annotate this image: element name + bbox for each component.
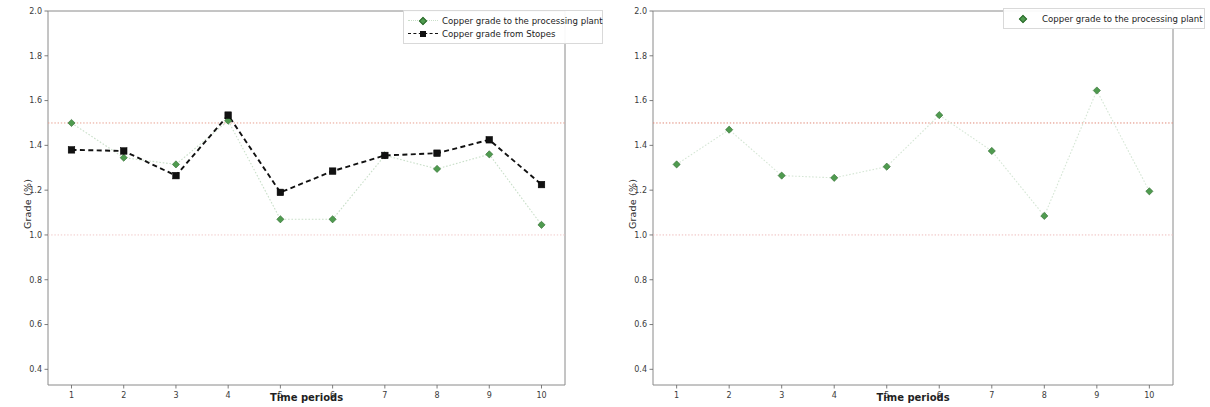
svg-text:9: 9 bbox=[487, 391, 492, 400]
svg-text:1.4: 1.4 bbox=[29, 141, 42, 150]
svg-text:8: 8 bbox=[1042, 391, 1047, 400]
svg-text:3: 3 bbox=[173, 391, 178, 400]
svg-text:4: 4 bbox=[832, 391, 837, 400]
legend-left: Copper grade to the processing plant Cop… bbox=[403, 10, 603, 44]
diamond-marker-icon bbox=[408, 15, 438, 27]
svg-text:0.8: 0.8 bbox=[634, 276, 647, 285]
svg-text:2: 2 bbox=[727, 391, 732, 400]
legend-right: Copper grade to the processing plant bbox=[1003, 8, 1205, 29]
legend-item[interactable]: Copper grade from Stopes bbox=[408, 27, 596, 40]
svg-text:1.0: 1.0 bbox=[29, 231, 42, 240]
svg-text:2: 2 bbox=[121, 391, 126, 400]
svg-text:10: 10 bbox=[1144, 391, 1154, 400]
legend-item[interactable]: Copper grade to the processing plant bbox=[1008, 12, 1198, 25]
svg-text:3: 3 bbox=[779, 391, 784, 400]
chart-panel-left: Grade (%) 0.40.60.81.01.21.41.61.82.0123… bbox=[0, 0, 605, 407]
plot-area-right: 0.40.60.81.01.21.41.61.82.012345678910 bbox=[605, 0, 1210, 407]
svg-text:10: 10 bbox=[536, 391, 546, 400]
svg-text:2.0: 2.0 bbox=[634, 7, 647, 16]
svg-text:7: 7 bbox=[989, 391, 994, 400]
svg-text:0.4: 0.4 bbox=[29, 365, 42, 374]
svg-text:2.0: 2.0 bbox=[29, 7, 42, 16]
svg-text:1: 1 bbox=[674, 391, 679, 400]
legend-item-label: Copper grade to the processing plant bbox=[1042, 13, 1203, 25]
chart-panel-right: Grade (%) 0.40.60.81.01.21.41.61.82.0123… bbox=[605, 0, 1210, 407]
svg-text:1.4: 1.4 bbox=[634, 141, 647, 150]
diamond-marker-icon bbox=[1008, 13, 1038, 25]
legend-item[interactable]: Copper grade to the processing plant bbox=[408, 14, 596, 27]
x-axis-label-right: Time periods bbox=[877, 392, 950, 403]
figure-container: Grade (%) 0.40.60.81.01.21.41.61.82.0123… bbox=[0, 0, 1210, 407]
svg-text:1.0: 1.0 bbox=[634, 231, 647, 240]
svg-text:1: 1 bbox=[69, 391, 74, 400]
svg-text:0.6: 0.6 bbox=[29, 320, 42, 329]
svg-text:8: 8 bbox=[435, 391, 440, 400]
plot-area-left: 0.40.60.81.01.21.41.61.82.012345678910 bbox=[0, 0, 605, 407]
svg-text:9: 9 bbox=[1094, 391, 1099, 400]
svg-text:1.8: 1.8 bbox=[634, 52, 647, 61]
svg-text:0.8: 0.8 bbox=[29, 276, 42, 285]
svg-text:1.8: 1.8 bbox=[29, 52, 42, 61]
x-axis-label-left: Time periods bbox=[270, 392, 343, 403]
legend-item-label: Copper grade to the processing plant bbox=[442, 15, 603, 27]
svg-text:1.6: 1.6 bbox=[634, 96, 647, 105]
square-marker-icon bbox=[408, 28, 438, 40]
svg-text:1.6: 1.6 bbox=[29, 96, 42, 105]
svg-text:0.4: 0.4 bbox=[634, 365, 647, 374]
svg-text:4: 4 bbox=[226, 391, 231, 400]
svg-text:1.2: 1.2 bbox=[29, 186, 42, 195]
legend-item-label: Copper grade from Stopes bbox=[442, 28, 555, 40]
svg-text:0.6: 0.6 bbox=[634, 320, 647, 329]
svg-text:7: 7 bbox=[382, 391, 387, 400]
svg-text:1.2: 1.2 bbox=[634, 186, 647, 195]
